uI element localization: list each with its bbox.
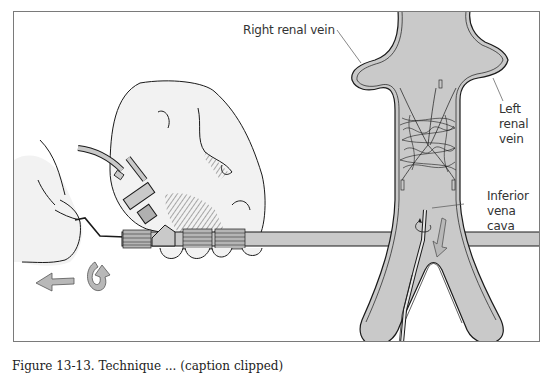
label-inferior-vena-cava: Inferior vena cava [487, 189, 529, 234]
label-line: Left [499, 102, 528, 117]
vena-cava-panel [337, 11, 508, 365]
figure-caption-clipped: Figure 13-13. Technique ... (caption cli… [12, 359, 283, 369]
label-left-renal-vein: Left renal vein [499, 102, 528, 147]
label-line: vein [499, 132, 528, 147]
label-right-renal-vein: Right renal vein [243, 23, 335, 38]
label-line: vena [487, 204, 529, 219]
label-line: cava [487, 219, 529, 234]
label-text: Right renal vein [243, 23, 335, 37]
label-line: renal [499, 117, 528, 132]
withdraw-arrow-icon [36, 273, 74, 291]
rotate-arrow-icon [88, 262, 111, 291]
label-line: Inferior [487, 189, 529, 204]
